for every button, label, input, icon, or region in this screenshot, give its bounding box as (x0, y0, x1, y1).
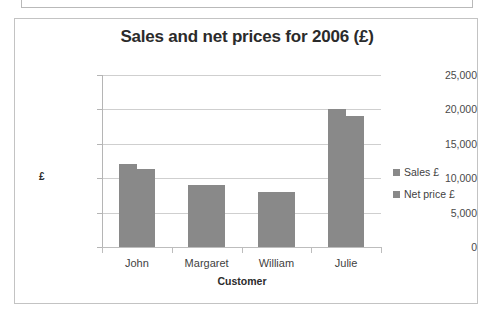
bar-william-sales[interactable] (258, 192, 276, 247)
y-axis-title: £ (39, 171, 45, 182)
x-axis-label-john: John (102, 257, 172, 269)
bar-john-net-price[interactable] (137, 169, 155, 247)
y-axis-line (102, 75, 103, 248)
y-axis-tick (97, 178, 102, 179)
bar-julie-net-price[interactable] (346, 116, 364, 247)
chart-container: Sales and net prices for 2006 (£) £ Cust… (14, 18, 478, 304)
y-axis-tick (97, 213, 102, 214)
clipped-text-box (21, 0, 473, 8)
y-axis-tick-label: 20,000 (405, 103, 477, 115)
legend-swatch-icon (393, 191, 400, 198)
y-axis-tick-label: 15,000 (405, 138, 477, 150)
x-axis-label-julie: Julie (311, 257, 381, 269)
y-axis-tick-label: 5,000 (405, 207, 477, 219)
legend-item-net-price[interactable]: Net price £ (393, 188, 477, 200)
x-axis-tick (381, 248, 382, 253)
bar-margaret-sales[interactable] (188, 185, 206, 247)
legend-swatch-icon (393, 169, 400, 176)
y-axis-tick-label: 0 (405, 241, 477, 253)
x-axis-tick (102, 248, 103, 253)
bar-julie-sales[interactable] (328, 109, 346, 247)
x-axis-tick (311, 248, 312, 253)
bar-john-sales[interactable] (119, 164, 137, 247)
x-axis-tick (172, 248, 173, 253)
plot-area (102, 75, 381, 247)
y-axis-tick-label: 25,000 (405, 69, 477, 81)
legend-item-label: Net price £ (404, 188, 455, 200)
x-axis-label-william: William (242, 257, 312, 269)
y-axis-tick (97, 109, 102, 110)
bar-william-net-price[interactable] (276, 192, 294, 247)
y-axis-tick-label: 10,000 (405, 172, 477, 184)
y-axis-tick (97, 75, 102, 76)
x-axis-label-margaret: Margaret (172, 257, 242, 269)
bar-margaret-net-price[interactable] (207, 185, 225, 247)
gridline (102, 75, 381, 76)
x-axis-tick (242, 248, 243, 253)
x-axis-title: Customer (102, 275, 382, 287)
chart-title: Sales and net prices for 2006 (£) (15, 27, 479, 47)
y-axis-tick (97, 144, 102, 145)
